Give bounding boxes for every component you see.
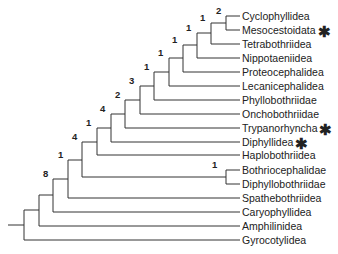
asterisk-marker-icon: ✱ [319,121,332,138]
taxon-label: Lecanicephalidea [242,80,324,92]
taxon-label: Amphilinidea [242,220,302,232]
support-value: 8 [43,169,48,179]
taxon-label: Tetrabothriidea [242,38,311,50]
taxon-label: Diphyllidea✱ [242,136,308,150]
taxon-label: Phyllobothriidae [242,94,317,106]
support-value: 1 [58,150,63,160]
taxon-label: Bothriocephalidae [242,164,326,176]
taxon-label: Onchobothriidae [242,108,319,120]
support-value: 1 [200,13,205,23]
taxon-label: Trypanorhyncha✱ [242,122,332,136]
support-value: 4 [72,132,77,142]
taxon-label: Proteocephalidea [242,66,324,78]
support-value: 4 [100,104,105,114]
support-value: 1 [186,23,191,33]
support-value: 1 [86,118,91,128]
support-value: 3 [129,76,134,86]
taxon-label: Haplobothriidea [242,149,316,161]
support-value: 1 [144,62,149,72]
taxon-label: Nippotaeniidea [242,52,312,64]
taxon-label: Mesocestoidata✱ [242,24,331,38]
taxon-label: Spathebothriidea [242,192,321,204]
support-value: 2 [115,90,120,100]
taxon-label: Gyrocotylidea [242,234,306,246]
asterisk-marker-icon: ✱ [318,23,331,40]
support-value: 2 [216,6,221,16]
support-value: 1 [212,160,217,170]
support-value: 1 [158,48,163,58]
support-value: 1 [172,35,177,45]
taxon-label: Diphyllobothriidae [242,178,325,190]
taxon-label: Caryophyllidea [242,206,311,218]
taxon-label: Cyclophyllidea [242,10,310,22]
